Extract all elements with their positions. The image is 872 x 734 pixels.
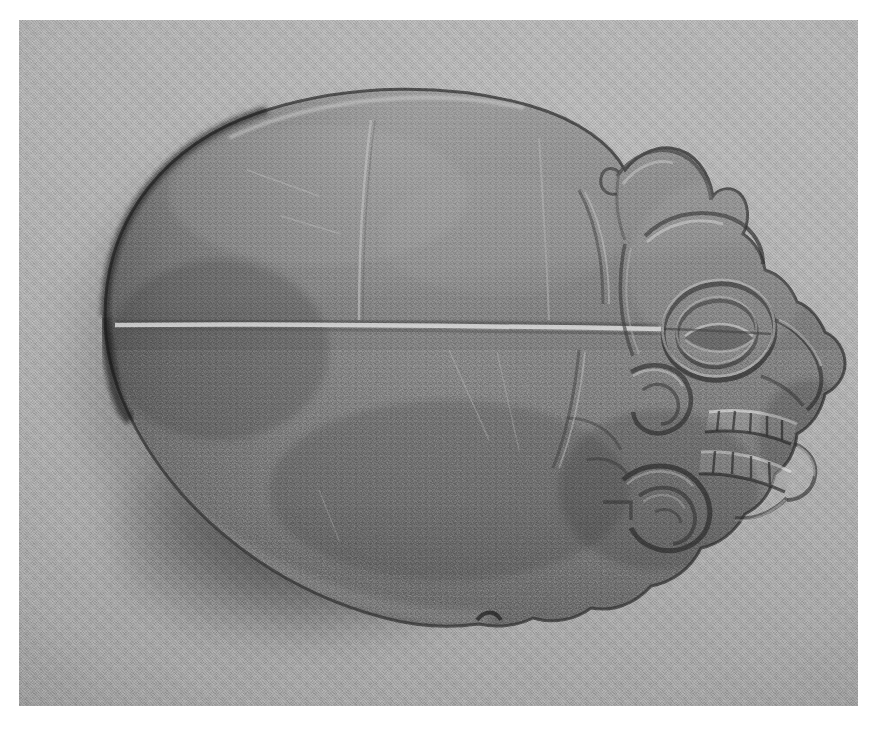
stone-artifact <box>19 20 858 706</box>
photograph-frame: carved stone artifact <box>0 0 872 734</box>
blade-shade-left <box>109 260 329 440</box>
blade-highlight-right <box>379 175 619 295</box>
stone-artifact-illustration <box>19 20 858 706</box>
artifact-description: carved stone artifact <box>0 16 1 17</box>
photograph-print <box>19 20 858 706</box>
